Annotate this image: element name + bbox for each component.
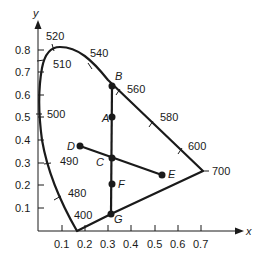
svg-text:560: 560: [127, 83, 145, 95]
svg-text:0.7: 0.7: [15, 66, 30, 78]
x-axis-title: x: [245, 225, 252, 237]
point-c: [109, 155, 116, 162]
svg-text:0.8: 0.8: [15, 44, 30, 56]
y-axis-title: y: [32, 7, 40, 19]
point-d: [77, 143, 84, 150]
svg-text:E: E: [168, 168, 176, 180]
svg-text:600: 600: [188, 140, 206, 152]
svg-text:0.5: 0.5: [15, 111, 30, 123]
x-tick-labels: 0.1 0.2 0.3 0.4 0.5 0.6 0.7: [54, 238, 208, 250]
svg-text:C: C: [96, 156, 104, 168]
svg-text:0.6: 0.6: [15, 89, 30, 101]
svg-text:0.2: 0.2: [77, 238, 92, 250]
svg-text:0.1: 0.1: [54, 238, 69, 250]
svg-text:580: 580: [160, 111, 178, 123]
svg-text:0.3: 0.3: [100, 238, 115, 250]
point-a: [109, 114, 116, 121]
svg-text:500: 500: [47, 108, 65, 120]
svg-text:G: G: [114, 213, 123, 225]
svg-text:0.3: 0.3: [15, 157, 30, 169]
svg-text:510: 510: [53, 58, 71, 70]
x-axis-arrow-icon: [235, 228, 244, 235]
svg-text:0.5: 0.5: [147, 238, 162, 250]
svg-text:0.2: 0.2: [15, 179, 30, 191]
svg-text:0.4: 0.4: [15, 134, 30, 146]
chromaticity-diagram: 0.1 0.2 0.3 0.4 0.5 0.6 0.7 0.8 0.1 0.2 …: [0, 0, 254, 262]
svg-text:490: 490: [60, 155, 78, 167]
svg-text:0.1: 0.1: [15, 202, 30, 214]
line-b-g: [111, 86, 112, 214]
svg-text:0.4: 0.4: [123, 238, 138, 250]
svg-text:0.7: 0.7: [193, 238, 208, 250]
point-e: [159, 172, 166, 179]
wavelength-labels: 520 510 540 560 580 600 500 490 480 400 …: [46, 30, 230, 221]
y-axis-arrow-icon: [35, 20, 42, 29]
svg-text:0.6: 0.6: [170, 238, 185, 250]
point-f: [109, 181, 116, 188]
svg-text:520: 520: [46, 30, 64, 42]
point-b: [109, 83, 116, 90]
svg-text:A: A: [101, 112, 109, 124]
svg-text:D: D: [67, 140, 75, 152]
line-d-e: [80, 146, 162, 175]
svg-text:700: 700: [212, 165, 230, 177]
svg-text:480: 480: [68, 187, 86, 199]
y-tick-labels: 0.1 0.2 0.3 0.4 0.5 0.6 0.7 0.8: [15, 44, 30, 214]
svg-text:540: 540: [90, 47, 108, 59]
svg-text:B: B: [115, 70, 122, 82]
svg-text:F: F: [118, 178, 126, 190]
svg-text:400: 400: [74, 209, 92, 221]
